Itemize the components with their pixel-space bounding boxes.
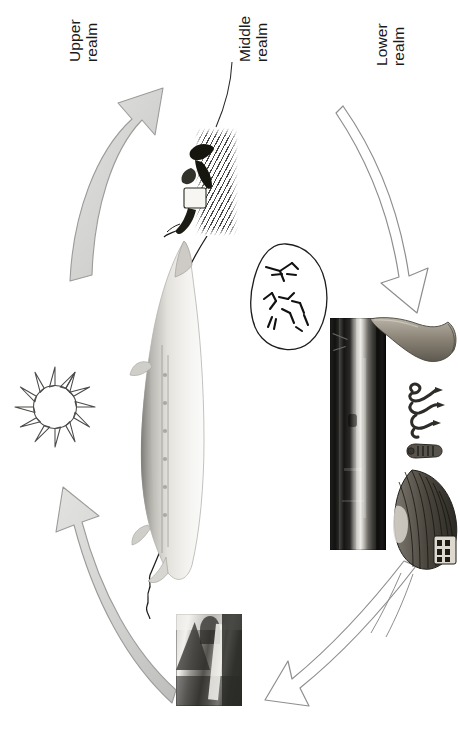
- axe-artifact: [368, 306, 460, 372]
- label-lower-realm: Lower realm: [373, 23, 407, 66]
- label-upper-realm-line2: realm: [83, 19, 100, 62]
- sun-icon: [14, 358, 96, 456]
- landscape-photograph: [176, 614, 242, 706]
- fanshell-leader-2: [386, 574, 413, 637]
- serpent-artifact: [404, 381, 450, 443]
- label-middle-realm-line1: Middle: [236, 16, 253, 62]
- upper-right-arrow: [336, 106, 428, 313]
- rock-art-panel: [246, 241, 332, 353]
- figurine-artifact: [404, 440, 444, 462]
- label-lower-realm-line2: realm: [390, 23, 407, 66]
- elk-engraving: [195, 128, 238, 236]
- lower-right-arrow: [265, 561, 416, 706]
- diagram-canvas: Upper realm Middle realm Lower realm: [0, 0, 460, 750]
- label-middle-realm: Middle realm: [236, 16, 270, 62]
- sturgeon-figure: [126, 235, 236, 583]
- label-middle-realm-line2: realm: [253, 16, 270, 62]
- label-upper-realm-line1: Upper: [66, 19, 83, 62]
- label-lower-realm-line1: Lower: [373, 23, 390, 66]
- fanshell-leader: [371, 573, 401, 633]
- label-upper-realm: Upper realm: [66, 19, 100, 62]
- fan-shell-artifact: [390, 462, 460, 574]
- middle-label-leader: [216, 62, 232, 127]
